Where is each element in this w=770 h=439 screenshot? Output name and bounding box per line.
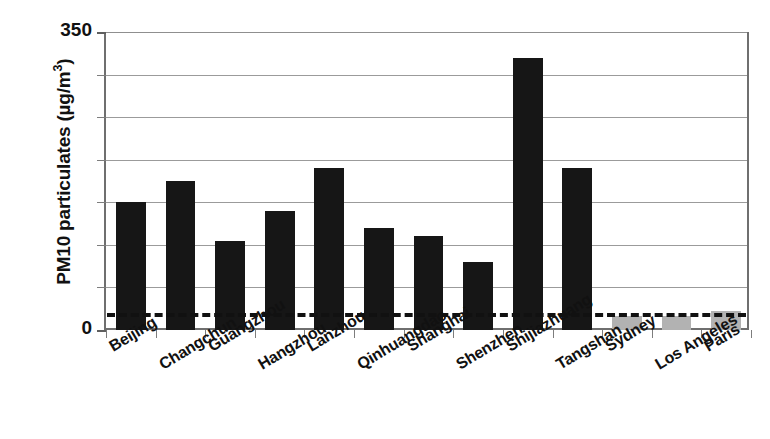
y-tick-50	[97, 287, 106, 288]
y-tick-0	[97, 330, 106, 332]
x-tick-3	[255, 330, 256, 338]
x-tick-1	[156, 330, 157, 338]
y-tick-250	[97, 117, 106, 118]
x-tick-9	[553, 330, 554, 338]
y-tick-100	[97, 245, 106, 246]
bar-lanzhou	[314, 168, 344, 330]
y-tick-150	[97, 202, 106, 203]
x-tick-end	[751, 330, 752, 338]
bar-los-angeles	[662, 316, 692, 330]
bar-beijing	[116, 202, 146, 330]
y-tick-200	[97, 160, 106, 161]
y-axis-label-0: 0	[12, 317, 92, 339]
x-tick-0	[106, 330, 107, 338]
chart-figure: PM10 particulates (µg/m3) 3500 BeijingCh…	[0, 0, 770, 439]
x-tick-11	[652, 330, 653, 338]
bar-changchun	[166, 181, 196, 330]
x-axis-labels: BeijingChangchunGuangzhouHangzhouLanzhou…	[0, 0, 770, 110]
x-tick-5	[354, 330, 355, 338]
